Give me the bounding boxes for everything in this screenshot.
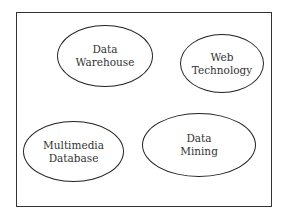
node-web-technology: Web Technology <box>180 34 264 93</box>
node-label-line: Data <box>186 132 211 145</box>
node-label-line: Database <box>49 152 99 165</box>
node-data-warehouse: Data Warehouse <box>57 25 153 87</box>
node-label-line: Data <box>92 43 117 56</box>
node-label-line: Web <box>211 51 234 64</box>
node-label-line: Warehouse <box>76 56 135 69</box>
node-label-line: Technology <box>192 64 252 77</box>
node-label-line: Mining <box>180 145 218 158</box>
node-data-mining: Data Mining <box>142 113 256 177</box>
node-label-line: Multimedia <box>43 139 104 152</box>
node-multimedia-database: Multimedia Database <box>23 121 124 182</box>
